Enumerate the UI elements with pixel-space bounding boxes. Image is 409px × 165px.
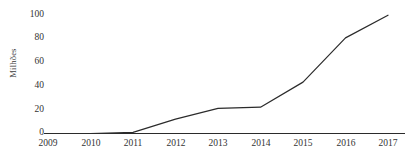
x-tick-2010: 2010 [71,139,111,149]
x-tick-2011: 2011 [113,139,153,149]
x-tick-2016: 2016 [326,139,366,149]
line-chart: 100 80 60 40 20 0 Milhões 2009 2010 2011… [0,0,409,165]
x-tick-2012: 2012 [156,139,196,149]
x-tick-2014: 2014 [241,139,281,149]
x-tick-2015: 2015 [283,139,323,149]
x-axis-ticks: 2009 2010 2011 2012 2013 2014 2015 2016 … [0,0,409,165]
x-tick-2013: 2013 [198,139,238,149]
x-tick-2017: 2017 [368,139,408,149]
x-tick-2009: 2009 [28,139,68,149]
